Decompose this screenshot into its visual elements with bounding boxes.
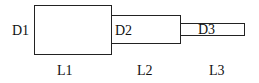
length-label-l1: L1 bbox=[57, 64, 73, 78]
length-label-l3: L3 bbox=[209, 64, 225, 78]
section-1-box bbox=[34, 5, 112, 55]
diameter-label-d3: D3 bbox=[198, 23, 215, 37]
diameter-label-d2: D2 bbox=[115, 24, 132, 38]
diameter-label-d1: D1 bbox=[12, 24, 29, 38]
length-label-l2: L2 bbox=[137, 64, 153, 78]
